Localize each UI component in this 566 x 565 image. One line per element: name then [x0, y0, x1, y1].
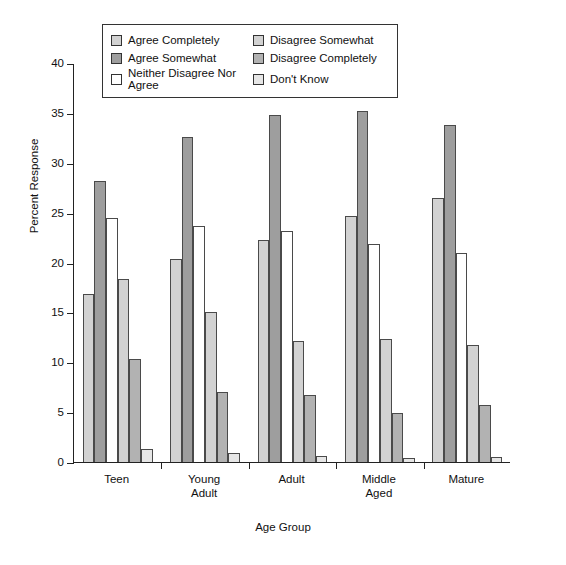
- legend-swatch-icon: [111, 74, 122, 85]
- bar: [141, 449, 153, 462]
- bar-group: [83, 64, 153, 462]
- bar: [456, 253, 468, 462]
- x-axis-category-label: Adult: [248, 472, 335, 486]
- bar: [228, 453, 240, 462]
- bar: [269, 115, 281, 462]
- legend-label: Agree Somewhat: [128, 53, 216, 65]
- bar-chart: Percent Response 0510152025303540 Age Gr…: [0, 0, 566, 565]
- y-axis-tick: [67, 164, 74, 165]
- y-axis-tick-label: 25: [34, 208, 64, 220]
- legend-swatch-icon: [253, 35, 264, 46]
- y-axis-tick-label: 30: [34, 158, 64, 170]
- bar: [368, 244, 380, 462]
- x-axis-separator-tick: [336, 462, 337, 469]
- y-axis-tick: [67, 313, 74, 314]
- y-axis-tick: [67, 114, 74, 115]
- bar: [357, 111, 369, 462]
- bar: [304, 395, 316, 462]
- chart-legend: Agree CompletelyAgree SomewhatNeither Di…: [102, 24, 398, 98]
- y-axis-tick: [67, 463, 74, 464]
- legend-label: Disagree Completely: [270, 53, 377, 65]
- legend-item: Agree Somewhat: [111, 50, 247, 69]
- bar: [205, 312, 217, 462]
- legend-label: Neither Disagree Nor Agree: [128, 68, 247, 91]
- bar-group: [345, 64, 415, 462]
- legend-item: Agree Completely: [111, 31, 247, 50]
- bar: [491, 457, 503, 462]
- bar: [129, 359, 141, 462]
- y-axis-tick: [67, 64, 74, 65]
- bar: [258, 240, 270, 462]
- bar: [193, 226, 205, 462]
- bar: [467, 345, 479, 462]
- bar: [182, 137, 194, 462]
- legend-swatch-icon: [111, 53, 122, 64]
- bar: [403, 458, 415, 462]
- bar-group: [432, 64, 502, 462]
- y-axis-tick-label: 5: [34, 407, 64, 419]
- bar: [170, 259, 182, 462]
- bar: [94, 181, 106, 462]
- legend-item: Neither Disagree Nor Agree: [111, 68, 247, 91]
- y-axis-tick-label: 15: [34, 307, 64, 319]
- y-axis-tick: [67, 363, 74, 364]
- y-axis-tick: [67, 264, 74, 265]
- y-axis-title: Percent Response: [28, 96, 40, 276]
- x-axis-separator-tick: [161, 462, 162, 469]
- x-axis-category-label: Teen: [73, 472, 160, 486]
- bar: [217, 392, 229, 462]
- y-axis-tick-label: 0: [34, 457, 64, 469]
- bar: [380, 339, 392, 462]
- bar: [118, 279, 130, 462]
- y-axis-tick-label: 40: [34, 58, 64, 70]
- legend-swatch-icon: [253, 53, 264, 64]
- bar: [479, 405, 491, 462]
- x-axis-category-label: Mature: [423, 472, 510, 486]
- y-axis-tick: [67, 214, 74, 215]
- legend-label: Don't Know: [270, 74, 328, 86]
- legend-swatch-icon: [111, 35, 122, 46]
- y-axis-tick-label: 35: [34, 108, 64, 120]
- bar-group: [258, 64, 328, 462]
- legend-label: Agree Completely: [128, 35, 219, 47]
- bar: [293, 341, 305, 462]
- legend-swatch-icon: [253, 74, 264, 85]
- legend-item: Don't Know: [253, 68, 389, 91]
- legend-item: Disagree Somewhat: [253, 31, 389, 50]
- bar: [392, 413, 404, 462]
- bar: [444, 125, 456, 462]
- x-axis-category-label: Young Adult: [160, 472, 247, 500]
- bar: [316, 456, 328, 462]
- y-axis-tick: [67, 413, 74, 414]
- legend-label: Disagree Somewhat: [270, 35, 374, 47]
- plot-area: 0510152025303540: [73, 64, 510, 463]
- legend-item: Disagree Completely: [253, 50, 389, 69]
- x-axis-separator-tick: [249, 462, 250, 469]
- bar: [106, 218, 118, 462]
- x-axis-category-label: Middle Aged: [335, 472, 422, 500]
- bar-group: [170, 64, 240, 462]
- bar: [281, 231, 293, 462]
- y-axis-tick-label: 10: [34, 357, 64, 369]
- bar: [83, 294, 95, 462]
- x-axis-separator-tick: [424, 462, 425, 469]
- bar: [432, 198, 444, 462]
- bar: [345, 216, 357, 462]
- y-axis-tick-label: 20: [34, 258, 64, 270]
- x-axis-title: Age Group: [0, 521, 566, 533]
